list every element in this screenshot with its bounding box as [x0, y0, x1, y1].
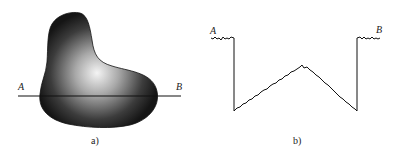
intensity-profile — [211, 37, 380, 111]
label-b-profile: B — [376, 24, 382, 35]
panel-a: A B a) — [17, 12, 182, 147]
figure: A B a) A B b) — [0, 0, 395, 159]
caption-b: b) — [293, 135, 301, 147]
blob-shape — [40, 12, 158, 127]
panel-b: A B b) — [209, 24, 382, 147]
caption-a: a) — [91, 135, 99, 147]
label-a: A — [17, 81, 25, 92]
label-a-profile: A — [209, 25, 217, 36]
label-b: B — [176, 81, 182, 92]
